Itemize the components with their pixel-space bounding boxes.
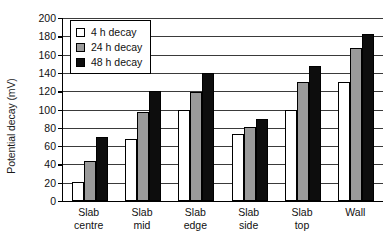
bar (137, 112, 149, 201)
bar-group (330, 18, 383, 201)
y-axis-tick-label: 20 (22, 177, 56, 188)
bar (244, 127, 256, 201)
legend-label: 4 h decay (91, 26, 137, 38)
y-axis-tick-label: 80 (22, 123, 56, 134)
x-axis-tick-label-line: side (222, 219, 275, 232)
x-axis-tick-label-line: Slab (115, 206, 168, 219)
bar (309, 66, 321, 201)
legend-item[interactable]: 4 h decay (76, 25, 142, 39)
y-axis-tick-label: 180 (22, 31, 56, 42)
legend-item[interactable]: 48 h decay (76, 55, 142, 69)
x-axis-tick-label-line: Slab (169, 206, 222, 219)
x-axis-tick-label: Slabtop (275, 206, 328, 246)
bar (338, 82, 350, 201)
x-axis-tick-label-line: top (275, 219, 328, 232)
bar (84, 161, 96, 201)
legend-item[interactable]: 24 h decay (76, 40, 142, 54)
x-axis-tick-label-line: centre (62, 219, 115, 232)
bar (297, 82, 309, 201)
legend-swatch-icon (76, 43, 85, 52)
y-axis-tick-label: 120 (22, 86, 56, 97)
bar-group (276, 18, 329, 201)
x-axis-tick-label-line: Wall (329, 206, 382, 219)
bar (362, 34, 374, 201)
x-axis-tick-label: Wall (329, 206, 382, 246)
bar (72, 182, 84, 201)
x-axis-tick-label-line: Slab (62, 206, 115, 219)
x-axis-tick-label-line: edge (169, 219, 222, 232)
x-axis-tick-label-line: mid (115, 219, 168, 232)
bar-chart: Potential decay (mV) 2001801601401201008… (0, 0, 388, 252)
bar (96, 137, 108, 201)
y-axis-title: Potential decay (mV) (0, 0, 22, 252)
y-axis-tick-label: 140 (22, 68, 56, 79)
legend-label: 24 h decay (91, 41, 142, 53)
bar (285, 110, 297, 202)
x-axis-tick-label: Slabedge (169, 206, 222, 246)
y-axis-tick-labels: 200180160140120100806040200 (22, 11, 56, 201)
bar (202, 73, 214, 201)
y-axis-tick-label: 200 (22, 13, 56, 24)
y-axis-tick-label: 40 (22, 159, 56, 170)
x-axis-tick-labels: SlabcentreSlabmidSlabedgeSlabsideSlabtop… (62, 206, 382, 246)
y-axis-tick-label: 0 (22, 196, 56, 207)
y-axis-tick-label: 60 (22, 141, 56, 152)
bar (232, 134, 244, 201)
x-axis-tick-label: Slabcentre (62, 206, 115, 246)
x-axis-tick-label: Slabside (222, 206, 275, 246)
legend-swatch-icon (76, 28, 85, 37)
x-axis-tick-label-line: Slab (275, 206, 328, 219)
y-axis-tickmark (58, 201, 63, 202)
chart-legend: 4 h decay24 h decay48 h decay (70, 20, 151, 74)
y-axis-tick-label: 100 (22, 104, 56, 115)
bar (190, 92, 202, 201)
bar-group (170, 18, 223, 201)
bar-group (223, 18, 276, 201)
bar (178, 110, 190, 202)
bar (125, 139, 137, 201)
bar (256, 119, 268, 201)
x-axis-tick-label: Slabmid (115, 206, 168, 246)
legend-swatch-icon (76, 58, 85, 67)
y-axis-tick-label: 160 (22, 49, 56, 60)
legend-label: 48 h decay (91, 56, 142, 68)
bar (350, 48, 362, 201)
x-axis-tick-label-line: Slab (222, 206, 275, 219)
bar (149, 91, 161, 201)
